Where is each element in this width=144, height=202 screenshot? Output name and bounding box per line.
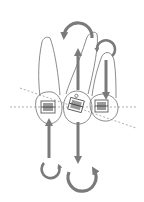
bottom-left-rotation-arrow-icon	[42, 163, 60, 178]
bottom-center-rotation-arrow-icon	[68, 170, 96, 191]
right-rotation-arrow-icon	[97, 40, 115, 56]
dental-force-diagram	[0, 0, 144, 202]
diagram-canvas	[0, 0, 144, 202]
center-bracket	[68, 93, 86, 113]
right-bracket	[95, 100, 108, 112]
left-bracket	[41, 101, 55, 113]
